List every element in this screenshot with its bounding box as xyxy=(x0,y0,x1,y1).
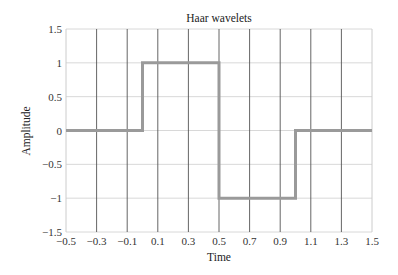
x-tick-label: 1.5 xyxy=(365,235,379,247)
y-tick-label: −1.5 xyxy=(42,226,62,238)
x-tick-label: 1.1 xyxy=(304,235,318,247)
x-tick-label: −0.3 xyxy=(87,235,107,247)
x-tick-label: 0.5 xyxy=(212,235,226,247)
x-tick-label: 0.3 xyxy=(182,235,196,247)
x-tick-label: 1.3 xyxy=(335,235,349,247)
y-tick-label: −1 xyxy=(50,192,62,204)
y-tick-label: 1.5 xyxy=(48,23,62,35)
x-tick-label: 0.7 xyxy=(243,235,257,247)
y-tick-label: −0.5 xyxy=(42,158,62,170)
haar-wavelet-line xyxy=(66,63,372,198)
x-tick-label: 0.1 xyxy=(151,235,165,247)
y-tick-label: 0 xyxy=(57,125,63,137)
x-tick-label: 0.9 xyxy=(273,235,287,247)
x-axis-label: Time xyxy=(207,251,231,263)
chart-title: Haar wavelets xyxy=(186,12,252,24)
x-tick-label: −0.1 xyxy=(117,235,137,247)
y-axis-ticks: −1.5−1−0.500.511.5 xyxy=(42,23,62,238)
haar-wavelet-chart: −0.5−0.3−0.10.10.30.50.70.91.11.31.5 −1.… xyxy=(0,0,398,275)
y-tick-label: 1 xyxy=(57,57,63,69)
x-axis-ticks: −0.5−0.3−0.10.10.30.50.70.91.11.31.5 xyxy=(56,235,379,247)
y-tick-label: 0.5 xyxy=(48,91,62,103)
plot-series xyxy=(66,63,372,198)
y-axis-label: Amplitude xyxy=(20,106,33,155)
